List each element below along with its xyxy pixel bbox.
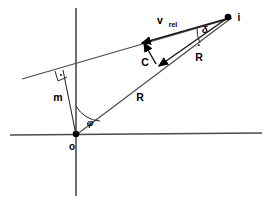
range-vector-line [76,19,230,135]
miss-distance-segment [63,70,76,135]
angle-delta-label: δ [202,24,208,35]
origin-point [73,131,80,138]
range-label: R [136,91,144,103]
range-rate-overdot: · [197,39,201,51]
range-rate-label: R [195,51,203,63]
vrel-label: v [157,14,163,26]
target-point [225,14,232,21]
cross-rate-overdot: · [143,44,147,56]
miss-distance-label: m [53,91,62,103]
angle-phi-label: φ [87,117,94,128]
diagram-canvas: o i R · R · C v rel m φ δ [0,0,267,201]
cross-rate-label: C [141,56,149,68]
origin-label: o [69,141,75,152]
right-angle-dot [60,74,62,76]
vrel-subscript: rel [169,21,178,28]
target-label: i [238,12,241,23]
horizontal-axis [10,133,262,135]
vector-geometry-diagram: o i R · R · C v rel m φ δ [0,0,267,201]
